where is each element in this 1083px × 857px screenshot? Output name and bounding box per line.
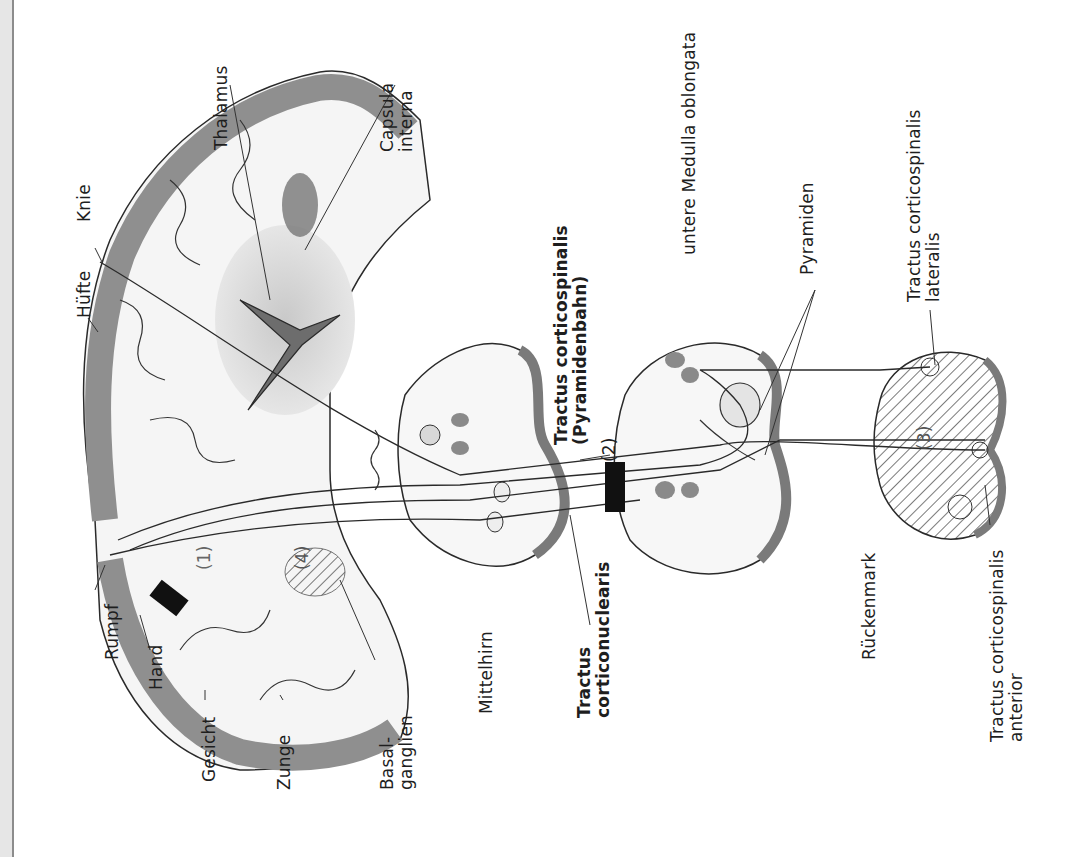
label-tractus-corticospinalis: Tractus corticospinalis (Pyramidenbahn) — [552, 225, 590, 445]
label-thalamus: Thalamus — [212, 65, 231, 150]
lesion-block-2 — [605, 462, 625, 512]
label-huefte: Hüfte — [75, 271, 94, 318]
label-tractus-cs-anterior: Tractus corticospinalis anterior — [988, 549, 1026, 742]
midbrain-section — [398, 344, 565, 566]
label-untere-medulla-oblongata: untere Medulla oblongata — [680, 32, 699, 255]
medulla-section — [614, 343, 786, 574]
label-rumpf: Rumpf — [103, 604, 122, 660]
label-tractus-cs-lateralis: Tractus corticospinalis lateralis — [905, 109, 943, 302]
cerebrum-section — [84, 71, 430, 770]
label-gesicht: Gesicht — [200, 717, 219, 782]
marker-1: (1) — [195, 545, 214, 570]
label-capsula-interna: Capsula interna — [378, 83, 416, 152]
label-zunge: Zunge — [275, 735, 294, 790]
marker-2: (2) — [600, 437, 619, 462]
label-tractus-corticonuclearis: Tractus corticonuclearis — [575, 562, 613, 719]
label-knie: Knie — [75, 184, 94, 222]
label-rueckenmark: Rückenmark — [860, 553, 879, 660]
label-basalganglien: Basal- ganglien — [378, 715, 416, 790]
label-pyramiden: Pyramiden — [798, 182, 817, 275]
marker-3: (3) — [915, 425, 934, 450]
marker-4: (4) — [293, 545, 312, 570]
label-hand: Hand — [147, 644, 166, 690]
label-mittelhirn: Mittelhirn — [477, 631, 496, 714]
spinal-cord-section — [874, 352, 1003, 539]
